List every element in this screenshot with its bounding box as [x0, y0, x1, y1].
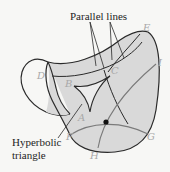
saddle-surface	[46, 31, 159, 152]
point-label-i: I	[157, 57, 163, 68]
point-label-f: F	[65, 131, 74, 142]
intersection-point	[103, 119, 108, 124]
hyperbolic-label-line1: Hyperbolic	[12, 136, 62, 148]
point-label-d: D	[36, 70, 45, 81]
point-label-a: A	[77, 112, 85, 123]
hyperbolic-label-line2: triangle	[12, 149, 46, 161]
point-label-c: C	[111, 65, 119, 76]
hyperbolic-saddle-diagram: Parallel lines Hyperbolic triangle E I D…	[0, 0, 170, 172]
point-label-h: H	[89, 150, 99, 161]
parallel-lines-label: Parallel lines	[70, 10, 127, 22]
point-label-g: G	[147, 131, 155, 142]
point-label-b: B	[64, 78, 72, 89]
point-label-e: E	[142, 22, 151, 33]
